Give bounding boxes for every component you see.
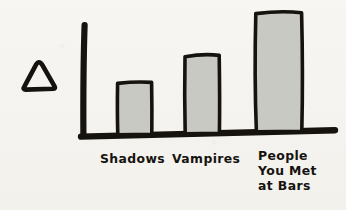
hand-drawn-bar-chart: Shadows Vampires People You Met at Bars: [0, 0, 346, 210]
category-labels: Shadows Vampires People You Met at Bars: [100, 148, 317, 193]
bar-label-shadows: Shadows: [100, 151, 165, 166]
bar-shadows[interactable]: [117, 82, 152, 135]
bar-people-you-met-at-bars[interactable]: [255, 12, 302, 132]
bar-label-line-2: You Met: [257, 163, 317, 178]
bar-label-vampires: Vampires: [172, 151, 240, 166]
bar-label-people-you-met-at-bars: People You Met at Bars: [257, 148, 317, 193]
triangle-outline-icon: [24, 62, 55, 89]
bar-label-line-1: People: [258, 148, 308, 163]
bar-vampires[interactable]: [185, 55, 220, 134]
y-axis: [83, 25, 84, 134]
chart-canvas: Shadows Vampires People You Met at Bars …: [0, 0, 346, 210]
bar-label-line-3: at Bars: [258, 178, 311, 193]
